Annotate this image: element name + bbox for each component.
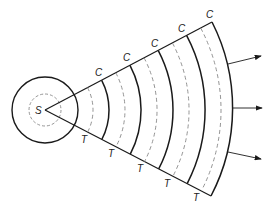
crest-label-3: C bbox=[151, 38, 159, 49]
trough-label-1: T bbox=[81, 134, 88, 145]
sector-upper-edge bbox=[45, 22, 212, 110]
trough-label-2: T bbox=[108, 148, 115, 159]
sector-lower-edge bbox=[45, 110, 211, 196]
propagation-arrow-upper bbox=[228, 56, 261, 64]
crest-label-1: C bbox=[95, 67, 103, 78]
diagram-canvas: S C C C C C T T T T T bbox=[0, 0, 277, 213]
crest-arcs bbox=[102, 22, 233, 196]
crest-label-2: C bbox=[123, 52, 131, 63]
wave-diagram: S C C C C C T T T T T bbox=[0, 0, 277, 213]
trough-label-4: T bbox=[164, 178, 171, 189]
crest-label-5: C bbox=[206, 9, 214, 20]
trough-label-5: T bbox=[193, 192, 200, 203]
trough-label-3: T bbox=[137, 163, 144, 174]
propagation-arrow-lower bbox=[228, 152, 261, 159]
source-label: S bbox=[35, 105, 42, 116]
crest-label-4: C bbox=[178, 23, 186, 34]
